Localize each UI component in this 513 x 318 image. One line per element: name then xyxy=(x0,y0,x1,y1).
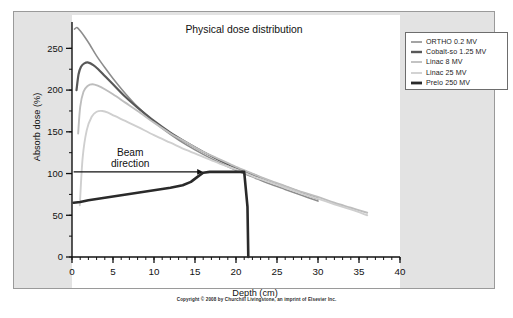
x-tick-label: 0 xyxy=(69,266,75,277)
legend-label: Linac 8 MV xyxy=(426,57,463,67)
y-axis-label: Absorb dose (%) xyxy=(32,77,42,177)
legend-label: Cobalt-so 1.25 MV xyxy=(426,47,486,57)
x-tick-label: 25 xyxy=(272,266,283,277)
legend-swatch-linac25 xyxy=(411,68,422,78)
y-tick-label: 200 xyxy=(47,84,63,95)
legend-swatch-prelo xyxy=(411,78,422,88)
figure-container: 0501001502002500510152025303540Physical … xyxy=(0,0,513,318)
beam-direction-label-line1: Beam xyxy=(117,147,144,158)
legend-item[interactable]: ORTHO 0.2 MV xyxy=(411,37,503,47)
x-tick-label: 20 xyxy=(231,266,242,277)
y-tick-label: 100 xyxy=(47,168,63,179)
copyright-footer: Copyright © 2008 by Churchill Livingston… xyxy=(0,297,513,302)
y-tick-label: 0 xyxy=(58,251,63,262)
y-tick-label: 250 xyxy=(47,43,63,54)
legend-item[interactable]: Linac 8 MV xyxy=(411,57,503,67)
legend-swatch-cobalt xyxy=(411,47,422,57)
x-tick-label: 40 xyxy=(395,266,406,277)
x-tick-label: 35 xyxy=(354,266,365,277)
x-tick-label: 5 xyxy=(110,266,116,277)
legend-label: Prelo 250 MV xyxy=(426,78,470,88)
x-tick-label: 15 xyxy=(190,266,201,277)
legend-item[interactable]: Prelo 250 MV xyxy=(411,78,503,88)
y-tick-label: 50 xyxy=(53,210,63,221)
x-tick-label: 30 xyxy=(313,266,324,277)
series-line-4 xyxy=(74,172,249,257)
legend-label: ORTHO 0.2 MV xyxy=(426,37,477,47)
legend-item[interactable]: Linac 25 MV xyxy=(411,68,503,78)
x-tick-label: 10 xyxy=(149,266,160,277)
beam-direction-label-line2: direction xyxy=(111,158,150,169)
legend-swatch-linac8 xyxy=(411,57,422,67)
chart-title: Physical dose distribution xyxy=(185,24,302,35)
legend-label: Linac 25 MV xyxy=(426,68,467,78)
legend-item[interactable]: Cobalt-so 1.25 MV xyxy=(411,47,503,57)
chart-legend[interactable]: ORTHO 0.2 MV Cobalt-so 1.25 MV Linac 8 M… xyxy=(405,32,508,90)
chart-panel: 0501001502002500510152025303540Physical … xyxy=(13,11,495,289)
y-tick-label: 150 xyxy=(47,126,63,137)
legend-swatch-ortho xyxy=(411,37,422,47)
